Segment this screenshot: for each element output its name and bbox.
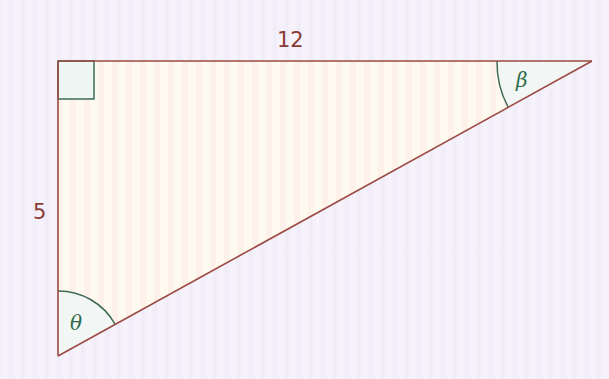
beta-wedge [497, 61, 592, 107]
top-side-label: 12 [277, 28, 304, 52]
right-angle-marker [58, 61, 94, 99]
left-side-label: 5 [33, 200, 46, 224]
beta-label: β [516, 68, 528, 92]
theta-label: θ [70, 311, 82, 335]
triangle-diagram [0, 0, 609, 379]
